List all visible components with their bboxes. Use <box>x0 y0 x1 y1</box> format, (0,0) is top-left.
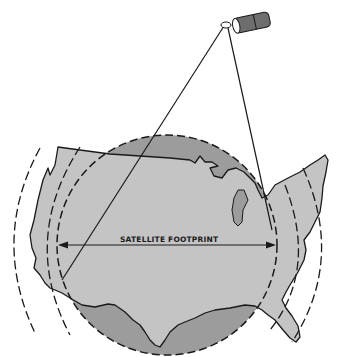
satellite-footprint-diagram: SATELLITE FOOTPRINT <box>0 0 337 357</box>
us-map-land <box>30 147 328 347</box>
footprint-label: SATELLITE FOOTPRINT <box>120 235 218 244</box>
